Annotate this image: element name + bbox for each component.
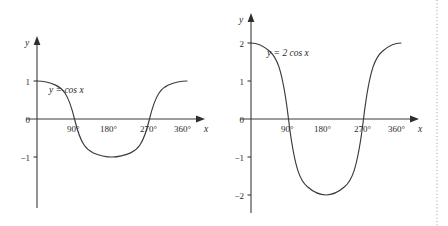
chart1-x-axis-arrowhead — [196, 116, 205, 123]
chart1-x-axis-label: x — [203, 124, 209, 134]
chart1-curve-equation-label: y = cos x — [48, 85, 84, 95]
chart-cos-x: 1 0 −1 90° 180° 270° 360° y x y = cos x — [20, 36, 209, 208]
chart1-ytick-label-1: 1 — [26, 77, 31, 87]
chart2-x-axis-arrowhead — [410, 116, 419, 123]
chart2-ytick-label-neg1: −1 — [234, 153, 244, 163]
chart2-x-axis-label: x — [417, 124, 423, 134]
chart1-y-axis-label: y — [24, 38, 30, 48]
chart1-y-axis-arrowhead — [34, 36, 41, 45]
two-cosine-graphs-figure: 1 0 −1 90° 180° 270° 360° y x y = cos x — [0, 0, 448, 226]
chart2-xtick-label-360: 360° — [388, 124, 406, 134]
chart1-xtick-label-180: 180° — [100, 124, 118, 134]
chart2-ytick-label-neg2: −2 — [234, 191, 244, 201]
figure-page: 1 0 −1 90° 180° 270° 360° y x y = cos x — [0, 0, 448, 226]
chart2-curve-equation-label: y = 2 cos x — [266, 48, 310, 58]
chart2-xtick-label-270: 270° — [354, 124, 372, 134]
chart1-ytick-label-neg1: −1 — [20, 153, 30, 163]
chart2-ytick-label-0: 0 — [240, 115, 245, 125]
chart1-xtick-label-270: 270° — [140, 124, 158, 134]
chart1-xtick-label-90: 90° — [67, 124, 80, 134]
chart2-xtick-label-90: 90° — [281, 124, 294, 134]
chart2-xtick-label-180: 180° — [314, 124, 332, 134]
chart-2cos-x: 2 1 0 −1 −2 90° 180° 270° 360° y x y = 2… — [234, 13, 423, 213]
chart2-ytick-label-2: 2 — [240, 39, 245, 49]
chart2-y-axis-label: y — [238, 15, 244, 25]
chart1-xtick-label-360: 360° — [174, 124, 192, 134]
chart1-ytick-label-0: 0 — [26, 115, 31, 125]
chart2-ytick-label-1: 1 — [240, 77, 245, 87]
chart2-y-axis-arrowhead — [248, 13, 255, 22]
